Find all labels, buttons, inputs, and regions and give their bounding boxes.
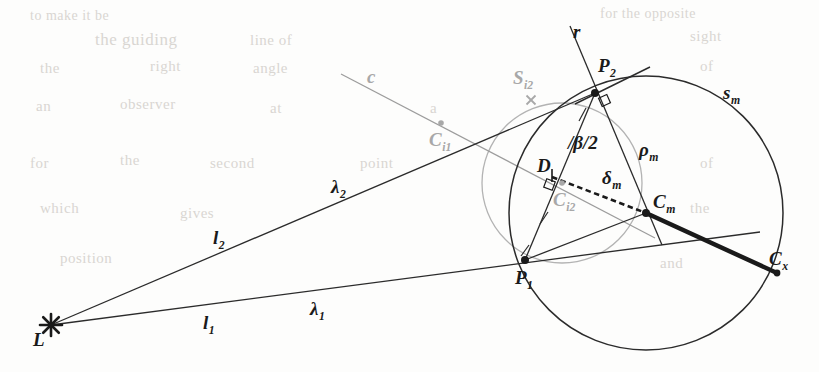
point-label-Ci1: Ci1 [429, 130, 451, 149]
geometry-figure: to make it befor the oppositethe guiding… [0, 0, 819, 372]
length-label-lambda1: λ1 [310, 299, 324, 318]
point-label-L: L [33, 330, 45, 349]
length-label-rho-m: ρm [639, 140, 658, 159]
point-marker-P2 [591, 89, 599, 97]
point-label-P1: P1 [515, 268, 533, 287]
ray-l2-lambda2 [51, 93, 595, 325]
tick-mark-p2 [579, 108, 586, 121]
length-label-lambda2: λ2 [331, 177, 345, 196]
point-marker-Ci1 [438, 120, 444, 126]
segment-cm-cx [646, 213, 777, 273]
circle-label-Si2: Si2 [513, 68, 533, 87]
length-label-l1: l1 [203, 313, 214, 332]
line-c [341, 74, 655, 238]
length-label-delta-m: δm [602, 168, 621, 187]
point-marker-Ci2 [559, 180, 565, 186]
ray-l1-lambda1 [51, 232, 760, 325]
point-label-Ci2: Ci2 [553, 190, 575, 209]
x-marker [527, 96, 536, 105]
angle-label-beta-half: /β/2 [568, 133, 598, 152]
point-label-Cx: Cx [769, 249, 788, 268]
point-label-P2: P2 [598, 56, 616, 75]
point-marker-Cx [774, 270, 781, 277]
point-marker-P1 [521, 256, 529, 264]
point-marker-Cm [642, 209, 650, 217]
circle-label-sm: sm [723, 83, 740, 102]
line-label-c: c [367, 67, 375, 86]
line-label-r: r [573, 22, 580, 41]
length-label-l2: l2 [213, 228, 224, 247]
point-label-D: D [537, 156, 551, 175]
point-label-Cm: Cm [653, 192, 675, 211]
right-angle-p2 [599, 95, 611, 107]
diagram-canvas [0, 0, 819, 372]
